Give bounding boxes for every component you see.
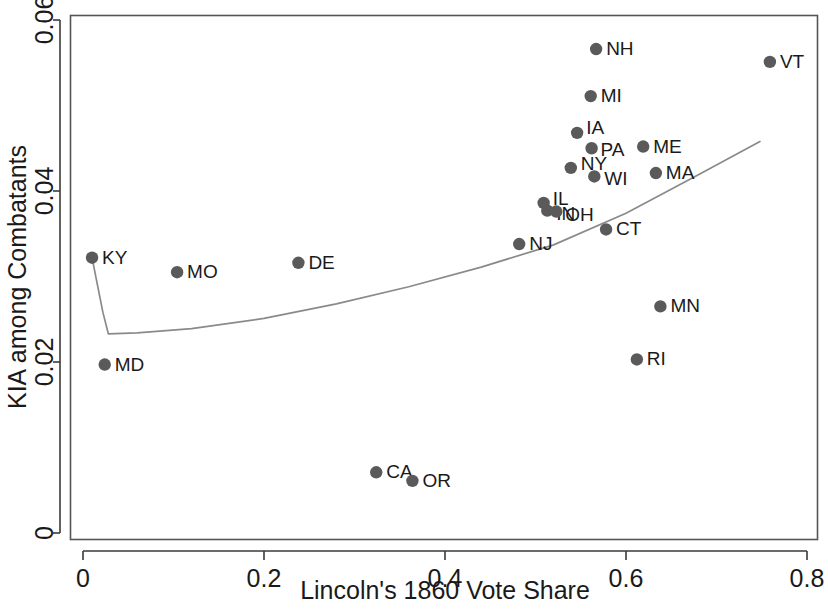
- y-tick-label: 0.04: [30, 167, 58, 216]
- point-label-nj: NJ: [529, 233, 552, 254]
- x-tick-label: 0.6: [609, 564, 644, 592]
- point-label-ct: CT: [616, 218, 642, 239]
- point-label-me: ME: [653, 136, 682, 157]
- marker-me[interactable]: [637, 140, 649, 152]
- point-label-ri: RI: [647, 348, 666, 369]
- marker-vt[interactable]: [764, 56, 776, 68]
- point-label-vt: VT: [780, 51, 805, 72]
- marker-mi[interactable]: [585, 90, 597, 102]
- chart-background: [0, 0, 828, 612]
- marker-mn[interactable]: [654, 300, 666, 312]
- marker-pa[interactable]: [585, 142, 597, 154]
- chart-canvas: 00.020.040.06 KIA among Combatants 00.20…: [0, 0, 828, 612]
- y-tick-label: 0: [30, 526, 58, 540]
- marker-nh[interactable]: [590, 43, 602, 55]
- y-tick-label: 0.02: [30, 338, 58, 387]
- marker-ct[interactable]: [600, 223, 612, 235]
- marker-md[interactable]: [99, 358, 111, 370]
- marker-oh[interactable]: [550, 205, 562, 217]
- y-tick-label: 0.06: [30, 0, 58, 44]
- marker-ca[interactable]: [370, 466, 382, 478]
- point-label-ma: MA: [666, 162, 695, 183]
- y-axis-title: KIA among Combatants: [3, 145, 31, 409]
- marker-de[interactable]: [292, 257, 304, 269]
- point-label-mi: MI: [601, 85, 622, 106]
- marker-ma[interactable]: [650, 167, 662, 179]
- marker-ia[interactable]: [571, 127, 583, 139]
- marker-ny[interactable]: [565, 162, 577, 174]
- point-label-pa: PA: [601, 139, 625, 160]
- point-label-ky: KY: [102, 247, 128, 268]
- marker-ri[interactable]: [631, 353, 643, 365]
- point-label-mn: MN: [670, 295, 700, 316]
- point-label-nh: NH: [606, 38, 633, 59]
- point-label-wi: WI: [604, 168, 627, 189]
- x-tick-label: 0: [76, 564, 90, 592]
- point-label-or: OR: [422, 470, 451, 491]
- marker-ky[interactable]: [86, 251, 98, 263]
- x-tick-label: 0.8: [790, 564, 825, 592]
- marker-mo[interactable]: [171, 266, 183, 278]
- point-label-de: DE: [308, 252, 334, 273]
- marker-or[interactable]: [406, 475, 418, 487]
- point-label-md: MD: [115, 354, 145, 375]
- point-label-mo: MO: [187, 261, 218, 282]
- point-label-oh: OH: [565, 204, 594, 225]
- point-label-ia: IA: [586, 117, 604, 138]
- x-tick-label: 0.2: [247, 564, 282, 592]
- scatter-plot-figure: 00.020.040.06 KIA among Combatants 00.20…: [0, 0, 828, 612]
- marker-wi[interactable]: [588, 170, 600, 182]
- marker-nj[interactable]: [513, 238, 525, 250]
- x-axis-title: Lincoln's 1860 Vote Share: [300, 576, 590, 604]
